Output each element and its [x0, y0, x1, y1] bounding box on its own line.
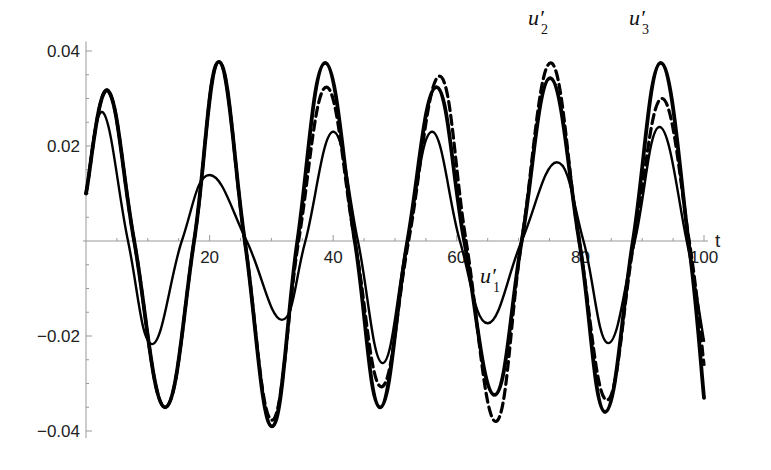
curve-label-1: u′1 — [480, 263, 500, 295]
y-tick-label: 0.02 — [47, 137, 80, 156]
svg-text:3: 3 — [642, 22, 649, 37]
series-uprime-3 — [86, 62, 704, 426]
svg-text:2: 2 — [541, 22, 548, 37]
x-tick-label: 20 — [200, 248, 219, 267]
x-tick-label: 40 — [324, 248, 343, 267]
line-chart: −0.04−0.020.020.04 20406080100 u′1u′2u′3… — [0, 0, 771, 470]
y-tick-label: −0.04 — [37, 422, 80, 441]
y-tick-label: −0.02 — [37, 327, 80, 346]
y-tick-label: 0.04 — [47, 42, 80, 61]
x-axis-label: t — [715, 230, 721, 251]
curve-label-3: u′3 — [629, 5, 649, 37]
svg-text:1: 1 — [493, 280, 500, 295]
series-group — [86, 62, 704, 426]
curve-labels: u′1u′2u′3 — [480, 5, 649, 295]
curve-label-2: u′2 — [528, 5, 548, 37]
